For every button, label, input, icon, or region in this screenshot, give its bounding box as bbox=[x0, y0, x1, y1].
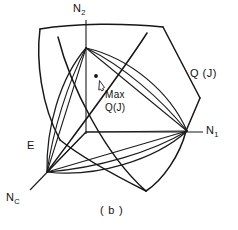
figure-caption: ( b ) bbox=[100, 204, 124, 216]
label-axis-nc-main: N bbox=[6, 191, 14, 203]
label-axis-n2-sub: 2 bbox=[81, 8, 85, 17]
figure-panel: N2 N1 NC E Q (J) Max Q(J) ( b ) bbox=[0, 0, 238, 230]
label-axis-nc: NC bbox=[6, 192, 20, 206]
max-point-arrow-icon bbox=[99, 81, 105, 91]
label-axis-n2: N2 bbox=[73, 3, 86, 17]
envelope-bottom-edge bbox=[60, 140, 146, 191]
label-axis-n1-main: N bbox=[206, 124, 214, 136]
label-axis-n1-sub: 1 bbox=[214, 130, 218, 139]
envelope-right-upper-edge bbox=[163, 27, 200, 98]
label-max-line2: Q(J) bbox=[105, 103, 125, 113]
diagram-canvas bbox=[0, 0, 238, 230]
label-surface-qj: Q (J) bbox=[190, 68, 217, 79]
max-point-dot bbox=[94, 74, 98, 78]
label-axis-n2-main: N bbox=[73, 2, 81, 14]
envelope-bottom-right-curve bbox=[146, 131, 186, 191]
envelope-top-edge bbox=[40, 24, 163, 29]
label-max-line1: Max bbox=[105, 90, 125, 100]
label-axis-n1: N1 bbox=[206, 125, 219, 139]
label-axis-nc-sub: C bbox=[14, 197, 20, 206]
envelope-right-lower-edge bbox=[186, 98, 200, 131]
label-node-e: E bbox=[27, 140, 35, 151]
max-point-group bbox=[94, 74, 104, 91]
